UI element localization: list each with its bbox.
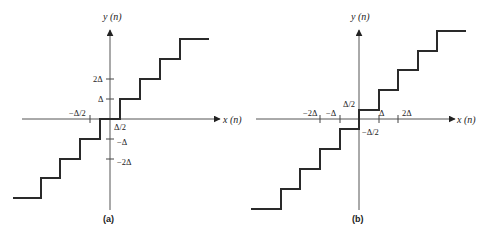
y-axis-label-b: y (n) [350,11,370,23]
label-neg-2delta-a: −2Δ [117,157,132,167]
label-neg-2delta-x-b: −2Δ [303,108,318,118]
x-axis-label-b: x (n) [456,114,476,126]
y-axis-label-a: y (n) [102,11,122,23]
label-delta-a: Δ [98,94,104,104]
label-2delta-x-b: 2Δ [402,108,412,118]
caption-a: (a) [103,214,114,224]
quantizer-figure: y (n) x (n) 2Δ Δ −Δ −2Δ −Δ/2 Δ/2 (a) y (… [0,0,493,237]
label-neg-delta-a: −Δ [117,137,128,147]
label-neg-half-delta-y-b: −Δ/2 [362,127,379,137]
diagram-a-midtread: y (n) x (n) 2Δ Δ −Δ −2Δ −Δ/2 Δ/2 (a) [13,11,242,224]
label-half-delta-y-b: Δ/2 [343,99,355,109]
label-2delta-a: 2Δ [93,74,103,84]
label-half-delta-x-a: Δ/2 [114,122,126,132]
label-neg-half-delta-x-a: −Δ/2 [69,108,86,118]
label-neg-delta-x-b: −Δ [326,108,337,118]
diagram-b-midrise: y (n) x (n) −2Δ −Δ Δ 2Δ Δ/2 −Δ/2 (b) [251,11,476,224]
x-axis-label-a: x (n) [222,114,242,126]
caption-b: (b) [352,214,364,224]
